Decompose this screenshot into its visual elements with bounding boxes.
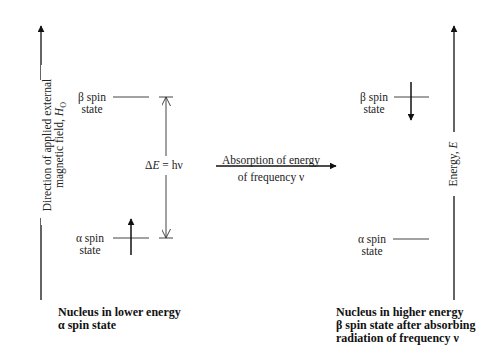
delta-e-label: ΔE = hν [144, 159, 184, 171]
absorption-label: Absorption of energy of frequency ν [208, 152, 334, 186]
left-axis-label-line1: Direction of applied external [41, 65, 53, 225]
left-alpha-label: α spin state [72, 232, 108, 256]
left-axis-label: Direction of applied external magnetic f… [41, 65, 67, 225]
left-caption: Nucleus in lower energy α spin state [58, 306, 181, 332]
right-alpha-label: α spin state [354, 233, 390, 257]
right-axis-label: Energy, E [447, 132, 461, 196]
left-axis-label-line2: magnetic field, HO [53, 65, 70, 225]
right-caption: Nucleus in higher energy β spin state af… [336, 306, 475, 345]
right-beta-label: β spin state [356, 91, 392, 115]
left-beta-label: β spin state [74, 91, 110, 115]
